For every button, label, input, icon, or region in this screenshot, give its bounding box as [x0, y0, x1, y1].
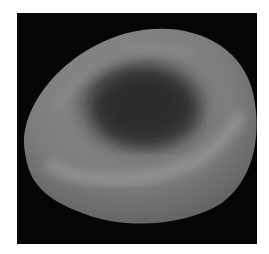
- micrograph-frame: [17, 13, 257, 244]
- cell-dimple-core: [97, 79, 197, 147]
- red-blood-cell-image: [17, 13, 257, 244]
